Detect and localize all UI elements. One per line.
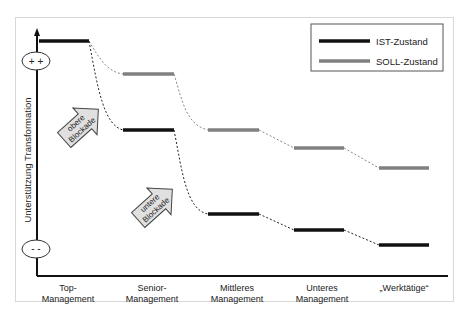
obere-blockade-arrow: obere Blockade bbox=[52, 96, 110, 154]
x-axis-labels: Top- Management Senior- Management Mittl… bbox=[42, 283, 429, 304]
legend-soll: SOLL-Zustand bbox=[376, 56, 438, 67]
category-unteres-1: Unteres bbox=[306, 283, 338, 293]
untere-blockade-arrow: untere Blockade bbox=[126, 176, 184, 234]
ist-connector bbox=[259, 214, 294, 230]
legend: IST-Zustand SOLL-Zustand bbox=[311, 24, 443, 71]
y-axis-arrow-icon bbox=[34, 28, 40, 36]
transformation-diagram: + + - - Unterstützung Transformation IST… bbox=[0, 0, 466, 318]
category-unteres-2: Management bbox=[296, 294, 349, 304]
category-top-2: Management bbox=[42, 294, 95, 304]
soll-series bbox=[123, 74, 429, 168]
category-top-1: Top- bbox=[59, 283, 77, 293]
soll-connector bbox=[344, 148, 379, 168]
ist-connector bbox=[174, 130, 208, 214]
category-senior-1: Senior- bbox=[137, 283, 166, 293]
soll-connector bbox=[174, 74, 208, 130]
legend-ist: IST-Zustand bbox=[376, 36, 428, 47]
ist-connector bbox=[344, 230, 379, 245]
marker-minus-label: - - bbox=[31, 243, 40, 254]
marker-plus-label: + + bbox=[29, 56, 44, 67]
soll-connector bbox=[259, 130, 294, 148]
ist-series bbox=[123, 130, 429, 245]
category-senior-2: Management bbox=[126, 294, 179, 304]
y-axis-label: Unterstützung Transformation bbox=[22, 97, 33, 222]
category-mittleres-2: Management bbox=[211, 294, 264, 304]
category-mittleres-1: Mittleres bbox=[220, 283, 255, 293]
category-werktaetige: „Werktätige“ bbox=[380, 283, 429, 293]
